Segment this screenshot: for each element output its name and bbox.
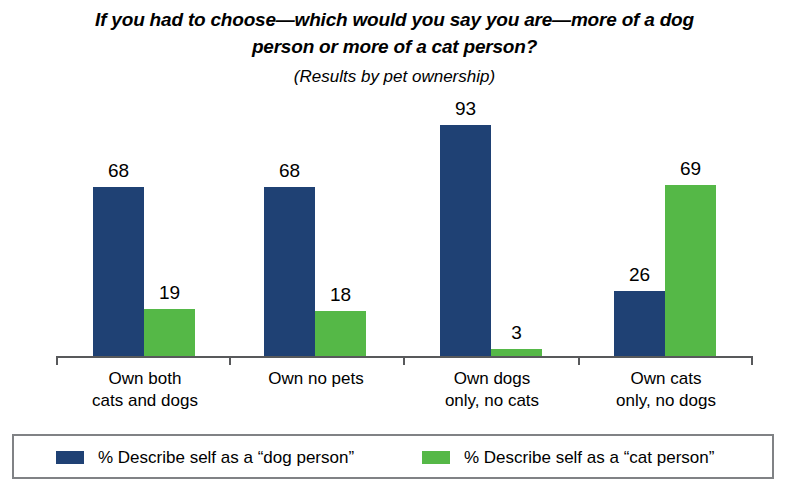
legend-swatch-cat-icon (422, 451, 450, 464)
legend-label-dog: % Describe self as a “dog person” (98, 449, 354, 466)
x-axis-tick-2 (229, 356, 231, 365)
legend-label-cat: % Describe self as a “cat person” (464, 449, 714, 466)
legend-item-cat-person[interactable]: % Describe self as a “cat person” (422, 449, 714, 466)
bar-cat-2 (315, 311, 366, 356)
bar-dog-2 (264, 187, 315, 356)
bar-value-label-cat-2: 18 (315, 285, 366, 304)
legend-swatch-dog-icon (56, 451, 84, 464)
bar-dog-1 (93, 187, 144, 356)
category-label-4-line-1: Own cats (556, 368, 776, 390)
x-axis-tick-4 (578, 356, 580, 365)
x-axis-tick-1 (56, 356, 58, 365)
bar-value-label-cat-3: 3 (491, 323, 542, 342)
chart-legend: % Describe self as a “dog person”% Descr… (12, 434, 774, 479)
x-axis-tick-3 (403, 356, 405, 365)
bar-dog-4 (614, 291, 665, 356)
x-axis-tick-5 (751, 356, 753, 365)
bar-dog-3 (440, 125, 491, 356)
bar-value-label-dog-2: 68 (264, 161, 315, 180)
bar-value-label-cat-4: 69 (665, 159, 716, 178)
bar-value-label-dog-1: 68 (93, 161, 144, 180)
bar-value-label-dog-3: 93 (440, 99, 491, 118)
category-label-1-line-2: cats and dogs (35, 390, 255, 412)
category-label-4-line-2: only, no dogs (556, 390, 776, 412)
bar-cat-3 (491, 349, 542, 356)
bar-cat-4 (665, 185, 716, 356)
legend-item-dog-person[interactable]: % Describe self as a “dog person” (56, 449, 354, 466)
bar-value-label-cat-1: 19 (144, 283, 195, 302)
chart-plot-area: Own bothcats and dogsOwn no petsOwn dogs… (0, 0, 789, 420)
category-label-4: Own catsonly, no dogs (556, 368, 776, 412)
bar-cat-1 (144, 309, 195, 356)
bar-value-label-dog-4: 26 (614, 265, 665, 284)
